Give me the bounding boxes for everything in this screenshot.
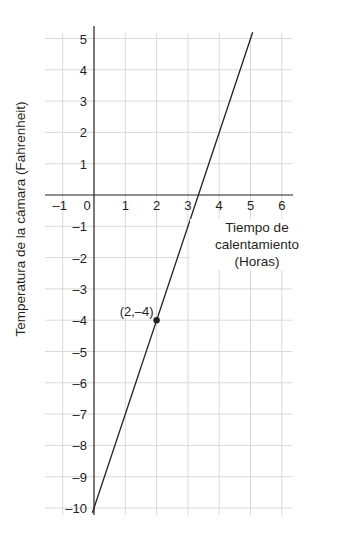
y-tick-label: –2	[73, 251, 87, 266]
x-tick-label: 4	[216, 198, 223, 213]
y-tick-label: –9	[73, 470, 87, 485]
chart-canvas: –1012345654321–1–2–3–4–5–6–7–8–9–10 (2,–…	[0, 0, 341, 542]
y-tick-label: –6	[73, 376, 87, 391]
y-tick-label: 1	[80, 157, 87, 172]
y-tick-label: 4	[80, 63, 87, 78]
data-line	[92, 32, 252, 512]
y-tick-label: –5	[73, 345, 87, 360]
series-line	[92, 32, 252, 512]
x-tick-label: 3	[184, 198, 191, 213]
y-tick-label: –10	[65, 501, 87, 516]
x-tick-label: 6	[278, 198, 285, 213]
x-tick-label: 2	[153, 198, 160, 213]
y-axis-label: Temperatura de la cámara (Fahrenheit)	[13, 102, 28, 337]
data-point-label: (2,–4)	[120, 304, 154, 319]
y-tick-label: 5	[80, 32, 87, 47]
y-tick-label: 2	[80, 125, 87, 140]
data-point	[153, 317, 159, 323]
x-axis-label-line-1: Tiempo de	[191, 219, 323, 236]
x-tick-label: 5	[247, 198, 254, 213]
y-tick-label: –3	[73, 282, 87, 297]
y-tick-label: –4	[73, 313, 87, 328]
x-axis-label-line-2: calentamiento (Horas)	[191, 236, 323, 270]
x-tick-label: –1	[52, 198, 66, 213]
x-tick-label: 0	[83, 198, 90, 213]
y-tick-label: 3	[80, 94, 87, 109]
x-axis-label: Tiempo de calentamiento (Horas)	[190, 219, 324, 270]
y-tick-label: –7	[73, 407, 87, 422]
x-tick-label: 1	[122, 198, 129, 213]
y-tick-label: –8	[73, 438, 87, 453]
y-tick-label: –1	[73, 219, 87, 234]
